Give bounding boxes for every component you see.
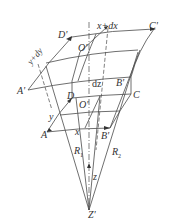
label-C-prime: C' [149, 21, 158, 31]
midline-top-surface [46, 50, 138, 63]
label-Z-prime: Z' [88, 210, 96, 220]
edge-right-top-surface [131, 29, 154, 77]
label-D: D [67, 91, 74, 101]
label-x-plus-dx: x+dx [97, 21, 118, 31]
label-dz: dz [92, 79, 101, 89]
arrow-z-icon [87, 163, 91, 168]
label-C: C [133, 90, 140, 100]
midline-bottom-surface [60, 111, 120, 115]
label-D-prime: D' [58, 30, 67, 40]
label-R2: R2 [112, 147, 121, 159]
label-B-prime-top: B' [116, 78, 124, 88]
label-O-prime-top: O' [78, 43, 87, 53]
radius-R1-line [46, 66, 89, 210]
label-B-prime-bottom: B' [101, 131, 109, 141]
label-z: z [93, 172, 97, 182]
label-O-prime-bottom: O' [79, 100, 88, 110]
label-R1: R1 [74, 146, 83, 158]
label-R1-subscript: 1 [80, 152, 83, 158]
diagram-lines [0, 0, 169, 222]
label-A-prime: A' [17, 86, 25, 96]
label-R2-subscript: 2 [118, 153, 121, 159]
shell-element-diagram: C' x+dx D' y+dy O' A' dz B' D C O' y A x… [0, 0, 169, 222]
label-A: A [41, 130, 47, 140]
label-y: y [49, 112, 53, 122]
label-x: x [75, 127, 79, 137]
